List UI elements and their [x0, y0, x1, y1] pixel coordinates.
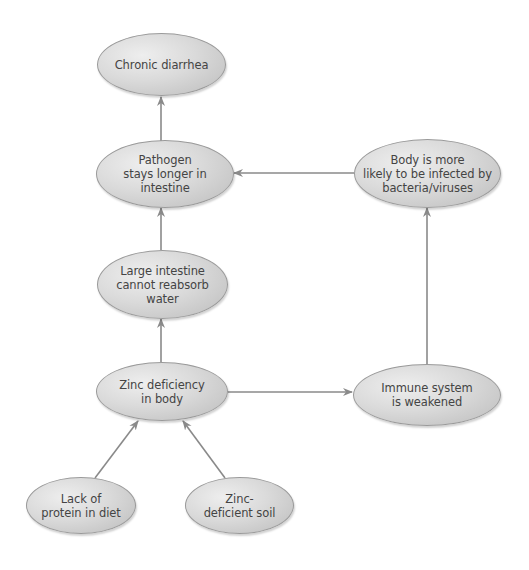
node-label: Body is more likely to be infected by ba…: [363, 153, 492, 195]
node-label: Chronic diarrhea: [115, 58, 209, 72]
node-lack-protein: Lack of protein in diet: [26, 477, 136, 534]
node-immune-system: Immune system is weakened: [353, 364, 501, 426]
node-label: Lack of protein in diet: [41, 492, 120, 520]
arrow-soil-to-zinc: [183, 421, 225, 478]
node-label: Pathogen stays longer in intestine: [123, 153, 206, 195]
node-zinc-soil: Zinc- deficient soil: [185, 477, 294, 534]
node-pathogen: Pathogen stays longer in intestine: [96, 140, 234, 208]
node-large-intestine: Large intestine cannot reabsorb water: [97, 250, 228, 319]
node-label: Immune system is weakened: [381, 381, 472, 409]
node-zinc-deficiency: Zinc deficiency in body: [96, 362, 228, 421]
node-chronic-diarrhea: Chronic diarrhea: [97, 33, 226, 96]
node-label: Zinc- deficient soil: [204, 492, 276, 520]
arrow-protein-to-zinc: [95, 421, 138, 478]
node-body-infected: Body is more likely to be infected by ba…: [354, 139, 501, 208]
node-label: Large intestine cannot reabsorb water: [116, 264, 209, 306]
node-label: Zinc deficiency in body: [119, 378, 204, 406]
